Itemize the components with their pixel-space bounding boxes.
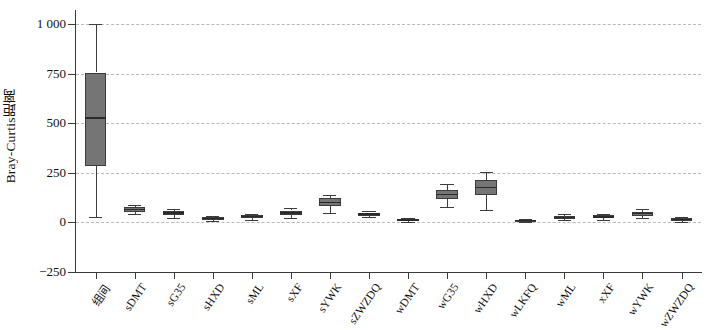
x-axis-line [75, 272, 702, 273]
y-axis-tick-label: 750 [14, 66, 66, 82]
x-axis-tick [447, 272, 448, 279]
x-axis-tick-label: wDMT [392, 281, 421, 316]
y-axis-tick-label: 0 [14, 214, 66, 230]
boxplot-figure: Bray-Curtis距离 −25002505007501 000 组间sDMT… [0, 0, 708, 330]
x-axis-tick [330, 272, 331, 279]
y-axis-tick-label: −250 [14, 264, 66, 280]
x-axis-tick [174, 272, 175, 279]
x-axis-tick-label: sDMT [121, 281, 148, 313]
x-axis-tick-label: wG35 [435, 281, 461, 311]
x-axis-tick [96, 272, 97, 279]
y-axis-tick-label: 250 [14, 165, 66, 181]
plot-area [76, 10, 701, 272]
y-axis-tick-label: 1 000 [14, 16, 66, 32]
x-axis-tick-label: sML [243, 281, 265, 306]
x-axis-tick-label: 组间 [87, 281, 113, 308]
x-axis-tick [252, 272, 253, 279]
x-axis-tick-label: sXF [284, 281, 305, 304]
x-axis-tick-label: wYWK [626, 281, 657, 318]
cap-lower [675, 222, 688, 223]
x-axis-tick [682, 272, 683, 279]
x-axis-tick-label: wHXD [471, 281, 500, 315]
y-axis-tick-label: 500 [14, 115, 66, 131]
x-axis-tick-label: sYWK [315, 281, 343, 314]
x-axis-tick-label: sHXD [200, 281, 227, 312]
x-axis-tick-label: wLKFQ [507, 281, 539, 320]
x-axis-tick [525, 272, 526, 279]
x-axis-tick [564, 272, 565, 279]
x-axis-tick [369, 272, 370, 279]
y-axis-title: Bray-Curtis距离 [0, 0, 22, 272]
x-axis-tick [213, 272, 214, 279]
x-axis-tick [486, 272, 487, 279]
x-axis-tick-label: sG35 [164, 281, 188, 308]
x-axis-tick [642, 272, 643, 279]
x-axis-tick [135, 272, 136, 279]
box-plot-item [76, 10, 701, 272]
x-axis-tick-label: sZWZDQ [346, 281, 383, 326]
x-axis-tick [603, 272, 604, 279]
x-axis-tick-label: xXF [595, 281, 617, 305]
median-line [671, 219, 693, 221]
x-axis-tick-label: wZWZDQ [657, 281, 696, 329]
x-axis-tick-label: wML [553, 281, 578, 309]
x-axis-tick [291, 272, 292, 279]
x-axis-tick [408, 272, 409, 279]
